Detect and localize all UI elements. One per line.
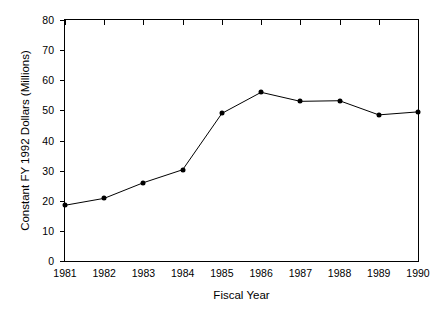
data-point <box>102 196 107 201</box>
x-tick-label: 1990 <box>395 267 441 279</box>
data-point <box>298 99 303 104</box>
plot-area <box>64 19 419 262</box>
data-point <box>141 180 146 185</box>
data-point <box>259 90 264 95</box>
x-axis-title: Fiscal Year <box>64 289 419 301</box>
data-point <box>376 112 381 117</box>
data-point <box>337 98 342 103</box>
y-tick-label: 10 <box>0 225 54 237</box>
y-tick-label: 50 <box>0 104 54 116</box>
y-tick-mark <box>60 261 65 262</box>
y-tick-label: 40 <box>0 135 54 147</box>
y-tick-label: 60 <box>0 74 54 86</box>
y-tick-label: 30 <box>0 165 54 177</box>
y-tick-label: 20 <box>0 195 54 207</box>
data-point <box>219 111 224 116</box>
data-point <box>63 203 68 208</box>
data-point <box>416 109 421 114</box>
data-points-layer <box>65 20 418 261</box>
data-point <box>180 167 185 172</box>
y-tick-label: 80 <box>0 14 54 26</box>
y-tick-label: 70 <box>0 44 54 56</box>
x-tick-mark <box>418 20 419 25</box>
chart-screenshot: Constant FY 1992 Dollars (Millions) Fisc… <box>0 0 444 320</box>
y-tick-label: 0 <box>0 255 54 267</box>
